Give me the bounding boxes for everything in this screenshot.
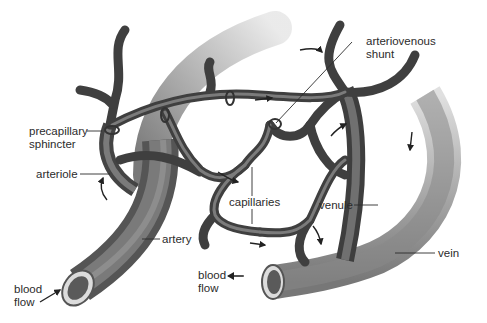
label-vein: vein — [438, 247, 459, 260]
label-line-2: flow — [198, 282, 218, 294]
label-capillaries: capillaries — [229, 196, 280, 209]
arrow-icon — [300, 49, 322, 52]
label-precapillary-sphincter: precapillary sphincter — [29, 125, 88, 151]
arrow-icon — [410, 132, 412, 150]
label-artery: artery — [162, 233, 191, 246]
arrow-icon — [250, 243, 265, 245]
label-venule: venule — [319, 199, 353, 212]
arrow-icon — [313, 226, 321, 244]
label-line-2: flow — [14, 296, 34, 308]
label-blood-flow-out: blood flow — [198, 269, 226, 295]
label-line-2: shunt — [366, 48, 394, 60]
label-arteriovenous-shunt: arteriovenous shunt — [366, 35, 436, 61]
arrow-left-icon — [226, 270, 246, 282]
arrow-icon — [331, 124, 346, 136]
label-line-1: arteriovenous — [366, 35, 436, 47]
label-line-1: blood — [14, 283, 42, 295]
label-line-1: blood — [198, 269, 226, 281]
label-blood-flow-in: blood flow — [14, 283, 42, 309]
label-line-2: sphincter — [29, 138, 76, 150]
arrow-icon — [40, 290, 60, 302]
label-arteriole: arteriole — [36, 168, 78, 181]
label-line-1: precapillary — [29, 125, 88, 137]
arrow-icon — [101, 178, 107, 200]
